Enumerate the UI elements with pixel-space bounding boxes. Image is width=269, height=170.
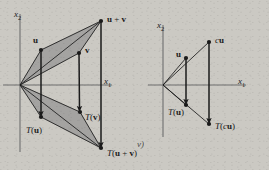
vector-addition-label-u+v: u + v [107, 15, 126, 24]
figure-canvas [0, 0, 269, 170]
vector-addition-arrow-v-to-Tv [79, 53, 80, 109]
scalar-multiplication-point-u [184, 56, 188, 60]
vector-addition-label-u: u [33, 36, 38, 45]
scalar-multiplication-label-u: u [176, 50, 181, 59]
vector-addition-point-u+v [99, 19, 103, 23]
scalar-multiplication-y-axis-label: x2 [157, 21, 164, 32]
scalar-multiplication-x-axis-label: x1 [238, 77, 245, 88]
scalar-multiplication-label-T(u): T(u) [168, 108, 184, 117]
scalar-multiplication-point-T(u) [184, 103, 188, 107]
vector-addition-point-T(u+v) [99, 146, 103, 150]
scalar-multiplication-label-T(cu): T(cu) [215, 122, 235, 131]
scalar-multiplication-label-cu: cu [215, 36, 224, 45]
scalar-multiplication-point-T(cu) [207, 122, 211, 126]
bleed-through-text: v) [137, 140, 144, 149]
vector-addition-point-T(u) [39, 115, 43, 119]
vector-addition-label-T(u+v): T(u + v) [107, 149, 137, 158]
vector-addition-label-T(u): T(u) [26, 126, 42, 135]
vector-addition-y-axis-label: x2 [14, 10, 21, 21]
vector-addition-label-T(v): T(v) [85, 113, 101, 122]
vector-addition-label-v: v [85, 46, 90, 55]
scalar-multiplication-point-cu [207, 40, 211, 44]
vector-addition-point-T(v) [78, 110, 82, 114]
vector-addition-point-v [77, 51, 81, 55]
scalar-multiplication-ray-origin-to-u [163, 58, 186, 85]
linear-transformation-figure: uvu + vT(u)T(v)T(u + v)x1x2ucuT(u)T(cu)x… [0, 0, 269, 170]
vector-addition-x-axis-label: x1 [104, 77, 111, 88]
vector-addition-point-u [39, 48, 43, 52]
